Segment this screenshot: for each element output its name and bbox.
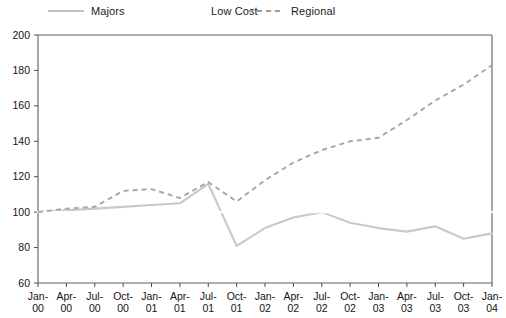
x-tick-label: Apr-01 bbox=[170, 290, 190, 314]
line-dashed-icon bbox=[248, 5, 284, 17]
legend-item-majors[interactable]: Majors bbox=[48, 0, 125, 22]
y-tick-label: 100 bbox=[12, 206, 30, 218]
svg-text:Apr-: Apr- bbox=[170, 290, 190, 302]
legend-item-low-cost[interactable]: Low Cost bbox=[168, 0, 258, 22]
svg-text:Jan-: Jan- bbox=[255, 290, 276, 302]
chart-legend: Majors Low Cost Regional bbox=[0, 0, 506, 26]
y-tick-label: 200 bbox=[12, 29, 30, 41]
x-tick-label: Apr-03 bbox=[397, 290, 417, 314]
svg-text:Apr-: Apr- bbox=[283, 290, 303, 302]
svg-text:Jan-: Jan- bbox=[28, 290, 49, 302]
legend-label-regional: Regional bbox=[291, 6, 335, 17]
x-tick-label: Jan-01 bbox=[141, 290, 162, 314]
x-tick-label: Jul-03 bbox=[427, 290, 444, 314]
svg-text:Oct-: Oct- bbox=[340, 290, 360, 302]
y-tick-label: 180 bbox=[12, 64, 30, 76]
svg-text:02: 02 bbox=[316, 302, 328, 314]
svg-text:02: 02 bbox=[344, 302, 356, 314]
svg-text:03: 03 bbox=[373, 302, 385, 314]
svg-text:00: 00 bbox=[89, 302, 101, 314]
y-tick-label: 160 bbox=[12, 99, 30, 111]
chart-container: Majors Low Cost Regional 608010012014016… bbox=[0, 0, 506, 318]
svg-text:01: 01 bbox=[174, 302, 186, 314]
x-tick-label: Oct-03 bbox=[454, 290, 474, 314]
svg-text:Jan-: Jan- bbox=[482, 290, 503, 302]
svg-text:Jan-: Jan- bbox=[141, 290, 162, 302]
series-line-majors bbox=[38, 184, 492, 246]
y-axis-tick-labels: 6080100120140160180200 bbox=[12, 29, 30, 289]
svg-text:03: 03 bbox=[401, 302, 413, 314]
axis-lines bbox=[38, 35, 492, 283]
chart-svg: 6080100120140160180200 Jan-00Apr-00Jul-0… bbox=[0, 26, 506, 318]
svg-text:01: 01 bbox=[146, 302, 158, 314]
x-tick-label: Apr-00 bbox=[56, 290, 76, 314]
svg-text:01: 01 bbox=[231, 302, 243, 314]
x-tick-label: Jul-00 bbox=[86, 290, 103, 314]
x-tick-label: Oct-01 bbox=[227, 290, 247, 314]
svg-text:Jul-: Jul- bbox=[86, 290, 103, 302]
x-tick-label: Oct-02 bbox=[340, 290, 360, 314]
svg-text:00: 00 bbox=[32, 302, 44, 314]
x-tick-label: Jan-00 bbox=[28, 290, 49, 314]
svg-text:Oct-: Oct- bbox=[454, 290, 474, 302]
svg-text:Oct-: Oct- bbox=[113, 290, 133, 302]
y-tick-label: 60 bbox=[18, 277, 30, 289]
line-solid-icon bbox=[168, 5, 204, 17]
y-tick-label: 140 bbox=[12, 135, 30, 147]
x-tick-label: Oct-00 bbox=[113, 290, 133, 314]
svg-text:00: 00 bbox=[117, 302, 129, 314]
x-axis-tick-marks bbox=[38, 283, 492, 287]
svg-text:02: 02 bbox=[288, 302, 300, 314]
x-tick-label: Apr-02 bbox=[283, 290, 303, 314]
y-tick-label: 80 bbox=[18, 241, 30, 253]
series-line-regional bbox=[38, 65, 492, 212]
svg-text:Jan-: Jan- bbox=[368, 290, 389, 302]
plot-area: 6080100120140160180200 Jan-00Apr-00Jul-0… bbox=[0, 26, 506, 318]
y-axis-tick-marks bbox=[34, 35, 38, 283]
svg-text:Jul-: Jul- bbox=[427, 290, 444, 302]
line-solid-icon bbox=[48, 5, 84, 17]
svg-text:04: 04 bbox=[486, 302, 498, 314]
data-series-layer bbox=[38, 65, 492, 246]
svg-text:Apr-: Apr- bbox=[397, 290, 417, 302]
svg-text:Jul-: Jul- bbox=[313, 290, 330, 302]
x-tick-label: Jan-03 bbox=[368, 290, 389, 314]
svg-text:Oct-: Oct- bbox=[227, 290, 247, 302]
x-tick-label: Jul-01 bbox=[200, 290, 217, 314]
svg-text:Apr-: Apr- bbox=[56, 290, 76, 302]
x-tick-label: Jan-02 bbox=[255, 290, 276, 314]
legend-label-majors: Majors bbox=[91, 6, 125, 17]
x-tick-label: Jul-02 bbox=[313, 290, 330, 314]
svg-text:03: 03 bbox=[458, 302, 470, 314]
svg-text:02: 02 bbox=[259, 302, 271, 314]
axis-frame bbox=[38, 35, 492, 283]
legend-item-regional[interactable]: Regional bbox=[248, 0, 335, 22]
svg-text:01: 01 bbox=[202, 302, 214, 314]
svg-text:03: 03 bbox=[429, 302, 441, 314]
x-axis-tick-labels: Jan-00Apr-00Jul-00Oct-00Jan-01Apr-01Jul-… bbox=[28, 290, 503, 314]
x-tick-label: Jan-04 bbox=[482, 290, 503, 314]
svg-text:Jul-: Jul- bbox=[200, 290, 217, 302]
y-tick-label: 120 bbox=[12, 170, 30, 182]
svg-text:00: 00 bbox=[61, 302, 73, 314]
